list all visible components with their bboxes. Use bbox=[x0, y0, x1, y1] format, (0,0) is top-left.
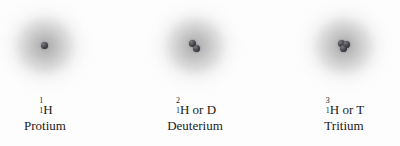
isotope-deuterium: 21H or D Deuterium bbox=[130, 0, 260, 146]
atomic-number: 1 bbox=[326, 107, 330, 115]
isotope-notation-tritium: 31H or T bbox=[279, 99, 400, 117]
element-symbol: H bbox=[330, 102, 339, 117]
atomic-number: 1 bbox=[39, 107, 43, 115]
mass-number: 1 bbox=[39, 97, 43, 105]
nucleus-tritium bbox=[332, 34, 356, 58]
nuclide-numbers: 11 bbox=[37, 99, 43, 114]
isotope-notation-protium: 11H bbox=[0, 99, 110, 117]
nucleon-neutron-icon bbox=[193, 45, 200, 52]
electron-cloud-protium bbox=[0, 0, 110, 96]
isotope-name-deuterium: Deuterium bbox=[130, 118, 260, 134]
electron-cloud-deuterium bbox=[130, 0, 260, 96]
alt-symbol: or T bbox=[339, 102, 364, 117]
isotope-tritium: 31H or T Tritium bbox=[279, 0, 400, 146]
nuclide-numbers: 21 bbox=[174, 99, 180, 114]
nucleus-deuterium bbox=[183, 34, 207, 58]
element-symbol: H bbox=[43, 102, 52, 117]
mass-number: 3 bbox=[326, 97, 330, 105]
nuclide-numbers: 31 bbox=[324, 99, 330, 114]
nucleon-neutron-icon bbox=[340, 45, 347, 52]
isotope-protium: 11H Protium bbox=[0, 0, 110, 146]
isotope-notation-deuterium: 21H or D bbox=[130, 99, 260, 117]
isotope-name-protium: Protium bbox=[0, 118, 110, 134]
element-symbol: H bbox=[180, 102, 189, 117]
mass-number: 2 bbox=[176, 97, 180, 105]
nucleon-proton-icon bbox=[41, 42, 48, 49]
alt-symbol: or D bbox=[189, 102, 216, 117]
nucleus-protium bbox=[33, 34, 57, 58]
atomic-number: 1 bbox=[176, 107, 180, 115]
isotope-name-tritium: Tritium bbox=[279, 118, 400, 134]
electron-cloud-tritium bbox=[279, 0, 400, 96]
